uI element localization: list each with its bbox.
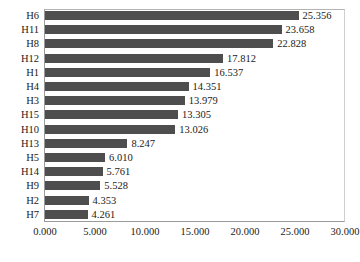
bar-value-label: 14.351 xyxy=(189,80,222,94)
bar-row: H24.353 xyxy=(0,194,360,208)
bar-value-label: 4.353 xyxy=(89,194,117,208)
category-label: H4 xyxy=(4,80,44,94)
category-label: H15 xyxy=(4,108,44,122)
category-label: H13 xyxy=(4,137,44,151)
bar xyxy=(45,196,89,205)
bar-value-label: 4.261 xyxy=(88,208,116,222)
category-label: H3 xyxy=(4,94,44,108)
bar-chart: H625.356H1123.658H822.828H1217.812H116.5… xyxy=(0,0,360,262)
bar xyxy=(45,210,88,219)
bar xyxy=(45,25,282,34)
category-label: H6 xyxy=(4,9,44,23)
bar xyxy=(45,82,189,91)
bar-value-label: 5.528 xyxy=(100,179,128,193)
bar-row: H625.356 xyxy=(0,9,360,23)
bar xyxy=(45,125,175,134)
bar xyxy=(45,68,210,77)
bar-row: H1013.026 xyxy=(0,123,360,137)
bar-row: H116.537 xyxy=(0,66,360,80)
bar-value-label: 6.010 xyxy=(105,151,133,165)
bar-row: H74.261 xyxy=(0,208,360,222)
bar xyxy=(45,139,127,148)
bar-value-label: 13.026 xyxy=(175,123,208,137)
bar-value-label: 8.247 xyxy=(127,137,155,151)
bar xyxy=(45,96,185,105)
category-label: H12 xyxy=(4,52,44,66)
category-label: H5 xyxy=(4,151,44,165)
bar-row: H414.351 xyxy=(0,80,360,94)
bar-row: H313.979 xyxy=(0,94,360,108)
bar-row: H822.828 xyxy=(0,37,360,51)
bar xyxy=(45,167,103,176)
category-label: H8 xyxy=(4,37,44,51)
bar-row: H1123.658 xyxy=(0,23,360,37)
bar-value-label: 13.979 xyxy=(185,94,218,108)
bar-value-label: 25.356 xyxy=(299,9,332,23)
bar xyxy=(45,54,223,63)
bar-value-label: 13.305 xyxy=(178,108,211,122)
category-label: H9 xyxy=(4,179,44,193)
category-label: H1 xyxy=(4,66,44,80)
bars-container: H625.356H1123.658H822.828H1217.812H116.5… xyxy=(0,9,360,222)
bar-row: H1513.305 xyxy=(0,108,360,122)
category-label: H11 xyxy=(4,23,44,37)
bar-row: H1217.812 xyxy=(0,52,360,66)
bar-row: H145.761 xyxy=(0,165,360,179)
bar xyxy=(45,11,299,20)
x-axis-tick-label: 30.000 xyxy=(315,224,360,240)
category-label: H2 xyxy=(4,194,44,208)
category-label: H7 xyxy=(4,208,44,222)
bar-value-label: 17.812 xyxy=(223,52,256,66)
bar xyxy=(45,181,100,190)
bar-row: H138.247 xyxy=(0,137,360,151)
bar xyxy=(45,153,105,162)
bar-row: H56.010 xyxy=(0,151,360,165)
x-axis-tick-labels: 0.0005.00010.00015.00020.00025.00030.000 xyxy=(0,224,360,242)
bar-value-label: 23.658 xyxy=(282,23,315,37)
bar xyxy=(45,110,178,119)
bar-value-label: 5.761 xyxy=(103,165,131,179)
bar-row: H95.528 xyxy=(0,179,360,193)
category-label: H10 xyxy=(4,123,44,137)
bar-value-label: 22.828 xyxy=(273,37,306,51)
bar xyxy=(45,39,273,48)
category-label: H14 xyxy=(4,165,44,179)
bar-value-label: 16.537 xyxy=(210,66,243,80)
